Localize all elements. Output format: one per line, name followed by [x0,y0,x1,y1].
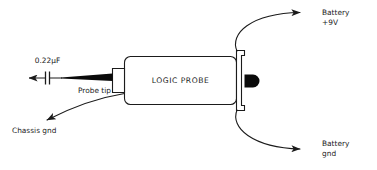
capacitor-label: 0.22µF [35,56,60,65]
battery-positive-wire [235,13,300,52]
battery-positive-label-line2: +9V [322,18,338,27]
probe-tip-label: Probe tip [78,86,111,95]
logic-probe-diagram: LOGIC PROBE 0.22µF Probe tip Chassis gnd… [0,0,377,170]
diagram-canvas: LOGIC PROBE 0.22µF Probe tip Chassis gnd… [0,0,377,170]
chassis-gnd-label: Chassis gnd [12,126,57,135]
chassis-ground-wire [47,94,125,121]
battery-ground-label-line1: Battery [322,139,350,148]
battery-ground-label-line2: gnd [322,149,336,158]
battery-ground-wire [236,110,300,149]
black-end-cap [245,75,260,88]
battery-positive-label-line1: Battery [322,8,350,17]
connector-flange [237,51,245,111]
probe-collar [113,69,125,93]
device-label: LOGIC PROBE [152,76,210,85]
probe-needle [61,73,113,81]
